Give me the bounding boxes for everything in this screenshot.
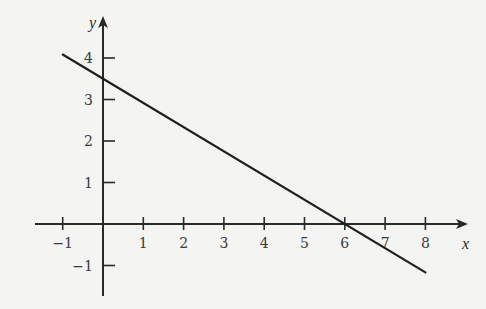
y-tick-label: 1 [84, 175, 93, 191]
y-tick-label: 2 [84, 133, 93, 149]
y-tick-label: −1 [72, 258, 93, 274]
x-axis-label: x [461, 235, 469, 252]
x-tick-label: 1 [139, 235, 148, 251]
x-tick-label: 3 [219, 235, 228, 251]
data-series [63, 55, 426, 273]
x-tick-label: 5 [300, 235, 309, 251]
x-tick-label: −1 [52, 235, 73, 251]
x-tick-label: 6 [340, 235, 349, 251]
line-series [63, 55, 426, 273]
x-tick-label: 8 [421, 235, 430, 251]
y-tick-label: 4 [84, 50, 93, 66]
ticks [63, 58, 426, 266]
line-chart: −112345678−11234 x y [0, 0, 486, 309]
x-tick-label: 2 [179, 235, 188, 251]
y-tick-label: 3 [84, 92, 93, 108]
x-tick-label: 4 [260, 235, 269, 251]
y-axis-label: y [87, 14, 97, 32]
axes [35, 16, 468, 296]
